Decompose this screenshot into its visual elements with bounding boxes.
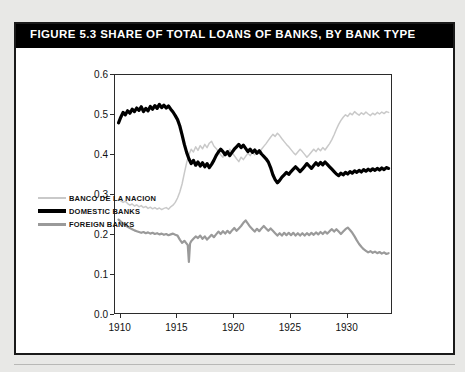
x-tick-label: 1920 — [222, 322, 244, 333]
y-tick-label: 0.5 — [94, 109, 108, 120]
x-tick-label: 1925 — [279, 322, 301, 333]
x-tick-mark — [290, 314, 291, 318]
figure-panel: FIGURE 5.3 SHARE OF TOTAL LOANS OF BANKS… — [14, 22, 455, 355]
legend-item: DOMESTIC BANKS — [38, 205, 188, 217]
legend-swatch — [38, 197, 66, 199]
figure-title: FIGURE 5.3 SHARE OF TOTAL LOANS OF BANKS… — [30, 28, 416, 40]
chart-legend: BANCO DE LA NACIONDOMESTIC BANKSFOREIGN … — [38, 192, 188, 231]
legend-label: FOREIGN BANKS — [69, 220, 135, 229]
legend-item: FOREIGN BANKS — [38, 218, 188, 230]
y-tick-mark — [110, 114, 114, 115]
x-tick-mark — [233, 314, 234, 318]
x-tick-label: 1915 — [165, 322, 187, 333]
legend-swatch — [38, 223, 66, 226]
page-divider — [14, 364, 455, 365]
y-tick-label: 0.4 — [94, 149, 108, 160]
x-tick-label: 1930 — [335, 322, 357, 333]
figure-title-bar: FIGURE 5.3 SHARE OF TOTAL LOANS OF BANKS… — [16, 24, 453, 48]
y-tick-label: 0.1 — [94, 269, 108, 280]
x-tick-mark — [120, 314, 121, 318]
legend-label: DOMESTIC BANKS — [69, 207, 140, 216]
x-tick-mark — [347, 314, 348, 318]
y-tick-mark — [110, 314, 114, 315]
y-tick-mark — [110, 274, 114, 275]
y-tick-label: 0.0 — [94, 309, 108, 320]
y-tick-label: 0.6 — [94, 69, 108, 80]
y-tick-mark — [110, 234, 114, 235]
legend-item: BANCO DE LA NACION — [38, 192, 188, 204]
legend-swatch — [38, 209, 66, 213]
y-tick-mark — [110, 154, 114, 155]
y-tick-mark — [110, 74, 114, 75]
x-tick-mark — [176, 314, 177, 318]
x-tick-label: 1910 — [109, 322, 131, 333]
legend-label: BANCO DE LA NACION — [69, 194, 156, 203]
